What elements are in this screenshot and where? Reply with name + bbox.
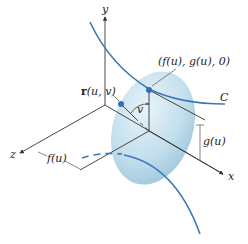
curve-point [146, 87, 152, 93]
angle-label: v [137, 103, 144, 116]
x-axis-label: x [228, 170, 235, 183]
point-coordinate-label: (f(u), g(u), 0) [158, 55, 230, 68]
revolution-ellipse [97, 60, 209, 195]
f-dimension-line-left [38, 152, 47, 156]
height-label: g(u) [203, 135, 226, 148]
z-axis-label: z [9, 148, 16, 161]
z-axis [20, 105, 105, 153]
surface-label-leader [113, 95, 119, 101]
y-axis-label: y [101, 3, 109, 16]
f-dimension-line-right [65, 161, 80, 169]
surface-point [118, 101, 124, 107]
surface-of-revolution-diagram: y z x v C (f(u), g(u), 0) r(u, v) g(u) f… [0, 0, 248, 244]
vector-args: (u, v) [87, 85, 116, 98]
depth-label: f(u) [46, 152, 67, 165]
curve-label: C [220, 91, 229, 104]
surface-point-label: r(u, v) [81, 85, 116, 98]
